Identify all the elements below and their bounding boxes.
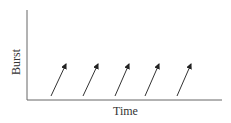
burst-arrow-icon bbox=[145, 64, 159, 96]
burst-arrow-icon bbox=[83, 64, 98, 96]
burst-arrow-icon bbox=[115, 64, 129, 96]
y-axis-label: Burst bbox=[9, 42, 24, 82]
x-axis-label: Time bbox=[0, 104, 231, 119]
burst-arrow-icon bbox=[51, 64, 66, 96]
burst-arrow-icon bbox=[177, 64, 191, 96]
burst-arrows bbox=[51, 64, 191, 96]
